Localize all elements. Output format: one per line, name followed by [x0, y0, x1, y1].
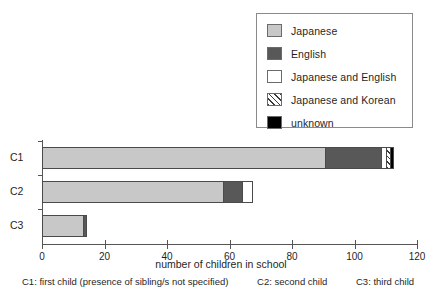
- x-tick-40: [167, 240, 168, 249]
- y-axis-label-c2: C2: [10, 185, 36, 197]
- y-axis-label-c3: C3: [10, 219, 36, 231]
- footnote-c1: C1: first child (presence of sibling/s n…: [22, 276, 228, 287]
- bar-c2-segment-english: [223, 181, 242, 203]
- bar-c1-segment-unknown: [390, 147, 393, 169]
- bar-c1: [42, 147, 394, 169]
- bar-c2-segment-japanese: [42, 181, 223, 203]
- legend-swatch-japanese-icon: [267, 24, 282, 37]
- x-tick-60: [230, 240, 231, 249]
- legend-item-unknown: unknown: [267, 112, 412, 133]
- legend-item-japanese-and-english: Japanese and English: [267, 66, 412, 87]
- x-tick-20: [105, 240, 106, 249]
- chart-legend: Japanese English Japanese and English Ja…: [256, 13, 413, 128]
- x-tick-0: [42, 240, 43, 249]
- bar-c1-segment-english: [325, 147, 381, 169]
- x-tick-120: [417, 240, 418, 249]
- x-axis-title: number of children in school: [0, 258, 442, 270]
- legend-item-japanese-and-korean: Japanese and Korean: [267, 89, 412, 110]
- bar-c2-segment-japanese-and-english: [242, 181, 253, 203]
- legend-swatch-unknown-icon: [267, 116, 282, 129]
- legend-label-japanese-and-korean: Japanese and Korean: [291, 94, 396, 106]
- chart-figure: Japanese English Japanese and English Ja…: [0, 0, 442, 302]
- footnote-c2: C2: second child: [257, 276, 327, 287]
- legend-label-japanese-and-english: Japanese and English: [291, 71, 396, 83]
- legend-label-english: English: [291, 48, 326, 60]
- y-axis-label-c1: C1: [10, 151, 36, 163]
- legend-item-english: English: [267, 43, 412, 64]
- plot-area: 0 20 40 60 80 100 120 C1 C2 C3: [42, 140, 417, 245]
- legend-label-unknown: unknown: [291, 117, 334, 129]
- legend-swatch-japanese-and-korean-icon: [267, 93, 282, 106]
- bar-c3: [42, 215, 87, 237]
- y-tick-c2-c3: [38, 209, 43, 210]
- legend-label-japanese: Japanese: [291, 25, 337, 37]
- legend-item-japanese: Japanese: [267, 20, 412, 41]
- legend-swatch-japanese-and-english-icon: [267, 70, 282, 83]
- y-tick-c1-c2: [38, 175, 43, 176]
- bar-c3-segment-japanese: [42, 215, 83, 237]
- bar-c1-segment-japanese: [42, 147, 325, 169]
- y-tick-top: [38, 141, 43, 142]
- footnote-c3: C3: third child: [356, 276, 414, 287]
- bar-c2: [42, 181, 253, 203]
- chart-footnote: C1: first child (presence of sibling/s n…: [22, 276, 432, 287]
- bar-c3-segment-english: [83, 215, 88, 237]
- x-tick-80: [292, 240, 293, 249]
- legend-swatch-english-icon: [267, 47, 282, 60]
- x-tick-100: [355, 240, 356, 249]
